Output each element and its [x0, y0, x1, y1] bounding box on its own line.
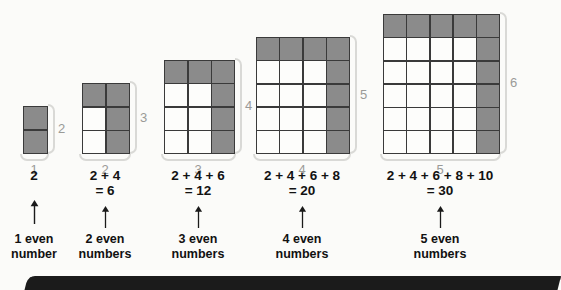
- grid-cell-shaded: [327, 38, 349, 60]
- up-arrow-4: [297, 206, 308, 228]
- grid-cell: [384, 38, 406, 60]
- grid-cell: [280, 61, 302, 83]
- grid-cell: [280, 85, 302, 107]
- grid-cell-shaded: [212, 131, 234, 153]
- height-label-5: 6: [510, 76, 517, 89]
- grid-cell: [189, 84, 211, 106]
- width-brace-5: [380, 154, 501, 161]
- grid-cell-shaded: [327, 85, 349, 107]
- expression-4: 2 + 4 + 6 + 8= 20: [232, 168, 372, 198]
- grid-cell-shaded: [257, 38, 279, 60]
- grid-cell: [407, 108, 429, 130]
- grid-cell: [165, 108, 187, 130]
- figure-grid-1: [23, 106, 48, 154]
- grid-cell: [431, 62, 453, 84]
- expression-line2: = 30: [370, 183, 510, 198]
- grid-cell: [454, 38, 476, 60]
- grid-cell: [189, 108, 211, 130]
- grid-cell-shaded: [477, 38, 499, 60]
- grid-cell-shaded: [407, 15, 429, 37]
- height-brace-5: [500, 12, 507, 154]
- grid-cell: [280, 108, 302, 130]
- caption-line1: 5 even: [380, 232, 500, 247]
- grid-cell-shaded: [24, 107, 47, 129]
- caption-5: 5 evennumbers: [380, 232, 500, 262]
- grid-cell-shaded: [107, 131, 129, 153]
- caption-line2: numbers: [242, 247, 362, 262]
- height-label-3: 4: [245, 99, 252, 112]
- up-arrow-1: [29, 196, 40, 228]
- grid-cell: [384, 108, 406, 130]
- grid-cell-shaded: [327, 61, 349, 83]
- grid-cell-shaded: [327, 108, 349, 130]
- caption-line2: numbers: [138, 247, 258, 262]
- grid-cell: [257, 131, 279, 153]
- grid-cell: [431, 38, 453, 60]
- figure-grid-2: [82, 83, 130, 154]
- grid-cell-shaded: [477, 108, 499, 130]
- width-brace-3: [161, 154, 236, 161]
- expression-line1: 2 + 4 + 6 + 8 + 10: [370, 168, 510, 183]
- grid-cell-shaded: [212, 84, 234, 106]
- up-arrow-2: [100, 206, 111, 228]
- expression-5: 2 + 4 + 6 + 8 + 10= 30: [370, 168, 510, 198]
- up-arrow-5: [435, 206, 446, 228]
- grid-cell-shaded: [454, 15, 476, 37]
- grid-cell-shaded: [107, 108, 129, 130]
- grid-cell: [165, 84, 187, 106]
- height-label-4: 5: [360, 88, 367, 101]
- grid-cell: [257, 85, 279, 107]
- caption-line2: numbers: [380, 247, 500, 262]
- grid-cell: [189, 131, 211, 153]
- grid-cell: [257, 61, 279, 83]
- height-brace-2: [130, 81, 137, 154]
- grid-cell: [83, 131, 105, 153]
- height-label-2: 3: [140, 111, 147, 124]
- figure-grid-3: [164, 60, 235, 154]
- grid-cell: [407, 62, 429, 84]
- grid-cell-shaded: [477, 62, 499, 84]
- grid-cell: [431, 108, 453, 130]
- height-brace-4: [350, 35, 357, 154]
- height-brace-3: [235, 58, 242, 154]
- grid-cell: [454, 62, 476, 84]
- grid-cell-shaded: [477, 85, 499, 107]
- grid-cell: [431, 131, 453, 153]
- grid-cell: [407, 131, 429, 153]
- grid-cell-shaded: [165, 61, 187, 83]
- grid-cell: [304, 131, 326, 153]
- caption-line1: 4 even: [242, 232, 362, 247]
- figure-grid-5: [383, 14, 500, 154]
- grid-cell: [407, 85, 429, 107]
- grid-cell: [431, 85, 453, 107]
- grid-cell: [83, 108, 105, 130]
- width-brace-4: [253, 154, 351, 161]
- caption-3: 3 evennumbers: [138, 232, 258, 262]
- grid-cell-shaded: [477, 131, 499, 153]
- grid-cell-shaded: [83, 84, 105, 106]
- grid-cell-shaded: [189, 61, 211, 83]
- grid-cell-shaded: [384, 15, 406, 37]
- grid-cell: [384, 131, 406, 153]
- grid-cell: [407, 38, 429, 60]
- grid-cell: [454, 108, 476, 130]
- up-arrow-3: [193, 206, 204, 228]
- grid-cell: [165, 131, 187, 153]
- grid-cell-shaded: [212, 108, 234, 130]
- grid-cell-shaded: [304, 38, 326, 60]
- grid-cell: [454, 85, 476, 107]
- grid-cell: [280, 131, 302, 153]
- width-brace-2: [79, 154, 131, 161]
- expression-line2: = 20: [232, 183, 372, 198]
- height-label-1: 2: [58, 122, 65, 135]
- height-brace-1: [48, 104, 55, 154]
- grid-cell-shaded: [212, 61, 234, 83]
- grid-cell: [384, 85, 406, 107]
- grid-cell-shaded: [477, 15, 499, 37]
- bottom-bar: [25, 276, 561, 290]
- width-brace-1: [20, 154, 49, 161]
- grid-cell: [304, 61, 326, 83]
- expression-line1: 2 + 4 + 6 + 8: [232, 168, 372, 183]
- grid-cell: [454, 131, 476, 153]
